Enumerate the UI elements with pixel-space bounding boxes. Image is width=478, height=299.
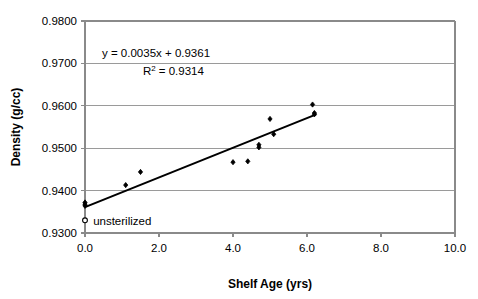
x-tick-label: 6.0 xyxy=(299,242,315,254)
x-tick-label: 0.0 xyxy=(77,242,93,254)
scatter-chart: 0.93000.94000.95000.96000.97000.9800 0.0… xyxy=(0,0,478,299)
chart-annotations: unsterilized xyxy=(93,215,151,227)
y-tick-label: 0.9300 xyxy=(42,227,77,239)
chart-container: 0.93000.94000.95000.96000.97000.9800 0.0… xyxy=(0,0,478,299)
y-tick-label: 0.9700 xyxy=(42,57,77,69)
x-tick-label: 2.0 xyxy=(151,242,167,254)
x-axis-title: Shelf Age (yrs) xyxy=(228,277,312,291)
regression-equation-label: y = 0.0035x + 0.9361 xyxy=(102,47,210,59)
y-tick-label: 0.9800 xyxy=(42,15,77,27)
r-squared-value: = 0.9314 xyxy=(159,65,205,77)
x-tick-label: 4.0 xyxy=(225,242,241,254)
y-tick-label: 0.9500 xyxy=(42,142,77,154)
x-tick-label: 10.0 xyxy=(444,242,466,254)
y-axis-title: Density (g/cc) xyxy=(9,88,23,167)
y-tick-label: 0.9400 xyxy=(42,185,77,197)
y-tick-label: 0.9600 xyxy=(42,100,77,112)
unsterilized-label: unsterilized xyxy=(93,215,151,227)
data-point-unsterilized xyxy=(83,218,88,223)
r-squared-symbol: R xyxy=(143,65,151,77)
r-squared-exponent: 2 xyxy=(151,64,156,73)
x-tick-label: 8.0 xyxy=(373,242,389,254)
